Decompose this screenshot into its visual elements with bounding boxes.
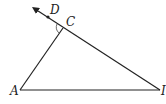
label-a: A	[9, 84, 19, 98]
triangle-diagram: D C A I	[0, 0, 166, 104]
angle-mark-c	[56, 24, 59, 33]
label-b: I	[160, 84, 166, 98]
segment-ac	[20, 28, 63, 90]
ray-bd	[35, 9, 160, 90]
label-d: D	[49, 3, 60, 17]
label-c: C	[66, 15, 75, 29]
